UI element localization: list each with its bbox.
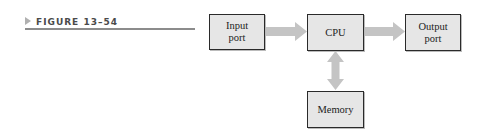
arrow-input-to-cpu [265, 22, 307, 41]
cpu-box: CPU [307, 14, 364, 51]
memory-box: Memory [307, 91, 364, 128]
output-port-box: Output port [405, 14, 461, 51]
input-port-label: Input port [226, 20, 248, 44]
cpu-label: CPU [325, 27, 345, 39]
memory-label: Memory [317, 104, 353, 116]
output-port-label: Output port [418, 21, 447, 45]
arrow-cpu-to-output [364, 22, 405, 41]
input-port-box: Input port [209, 14, 265, 50]
arrow-cpu-memory-bidirectional [327, 51, 344, 90]
